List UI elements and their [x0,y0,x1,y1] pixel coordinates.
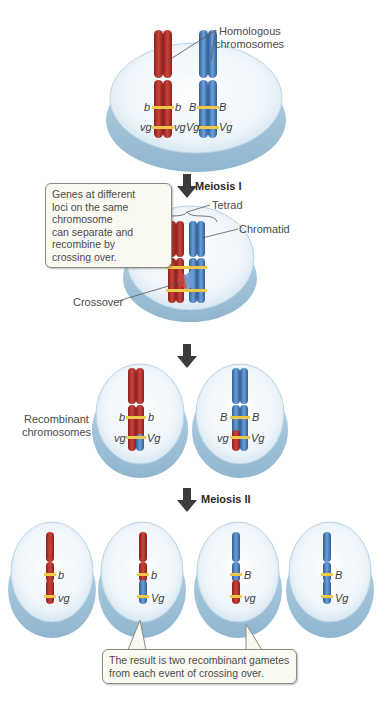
label-tetrad: Tetrad [212,199,243,211]
gene-B-blue-left: B [189,102,196,113]
arrow-step-2 [177,344,197,368]
gene-Vg-blue-left: Vg [186,122,199,133]
gene-vg-right-cell-left: vg [217,433,229,444]
gene-B-blue-right: B [219,102,226,113]
label-chromatid: Chromatid [239,223,290,235]
callout1-line: recombine by [52,238,165,251]
gamete-1-bottom-gene: vg [58,593,70,604]
gamete-chromatid-lower-segment [323,580,331,604]
gene-band-lower [230,595,242,598]
gene-band-lower [321,595,333,598]
gene-vg-red-left: vg [140,122,152,133]
gamete-1-top-gene: b [58,570,64,581]
gene-vg-red-right: vg [174,122,186,133]
label-crossover: Crossover [73,296,123,308]
arrow-meiosis-1 [177,174,197,198]
gene-band-upper [321,573,333,576]
gamete-chromatid-lower-segment [46,580,54,604]
gamete-chromatid-upper-arm [232,532,240,562]
gene-vg-left-cell-left: vg [114,433,126,444]
callout-crossing-over: Genes at different loci on the same chro… [45,183,172,268]
gene-band-lower [44,595,56,598]
gene-b-left-cell-left: b [119,412,125,423]
step-label-meiosis-1: Meiosis I [195,180,241,192]
gamete-3-bottom-gene: vg [244,593,256,604]
label-recombinant-line2: chromosomes [22,426,91,438]
label-recombinant-line1: Recombinant [24,413,89,425]
gamete-chromatid-lower-segment [139,580,147,604]
recombinant-chromosome-right [230,368,250,451]
gene-b-red-right: b [175,102,181,113]
callout1-line: can separate and [52,226,165,239]
gene-b-left-cell-right: b [148,412,154,423]
gene-band-upper [44,573,56,576]
gamete-2-bottom-gene: Vg [151,593,164,604]
gamete-2-top-gene: b [151,570,157,581]
callout1-line: chromosome [52,213,165,226]
gamete-chromatid-mid-segment [323,562,331,582]
gene-Vg-left-cell-right: Vg [147,433,160,444]
gene-Vg-right-cell-right: Vg [251,433,264,444]
gene-band-upper [230,573,242,576]
gamete-chromatid-upper-arm [323,532,331,562]
gamete-3-top-gene: B [244,570,251,581]
gene-b-red-left: b [144,102,150,113]
recombinant-chromosome-left [126,368,146,451]
gene-Vg-blue-right: Vg [219,122,232,133]
gamete-chromatid-mid-segment [139,562,147,582]
label-homologous-line2: chromosomes [215,38,284,50]
label-homologous-line1: Homologous [219,25,281,37]
callout2-line: The result is two recombinant gametes [109,654,290,667]
gene-B-right-cell-left: B [220,412,227,423]
step-label-meiosis-2: Meiosis II [201,493,251,505]
gamete-chromatid-upper-arm [139,532,147,562]
gene-band-lower [137,595,149,598]
callout1-line: loci on the same [52,201,165,214]
gamete-chromatid-upper-arm [46,532,54,562]
gamete-chromatid-mid-segment [232,562,240,582]
gamete-chromatid-lower-segment [232,580,240,604]
gene-band-upper [137,573,149,576]
arrow-meiosis-2 [177,488,197,512]
gamete-4-top-gene: B [335,570,342,581]
gamete-4-bottom-gene: Vg [335,593,348,604]
gene-B-right-cell-right: B [252,412,259,423]
callout1-line: Genes at different [52,188,165,201]
gamete-chromatid-mid-segment [46,562,54,582]
callout-recombinant-gametes: The result is two recombinant gametes fr… [102,649,297,684]
callout1-line: crossing over. [52,251,165,264]
callout2-line: from each event of crossing over. [109,667,290,680]
